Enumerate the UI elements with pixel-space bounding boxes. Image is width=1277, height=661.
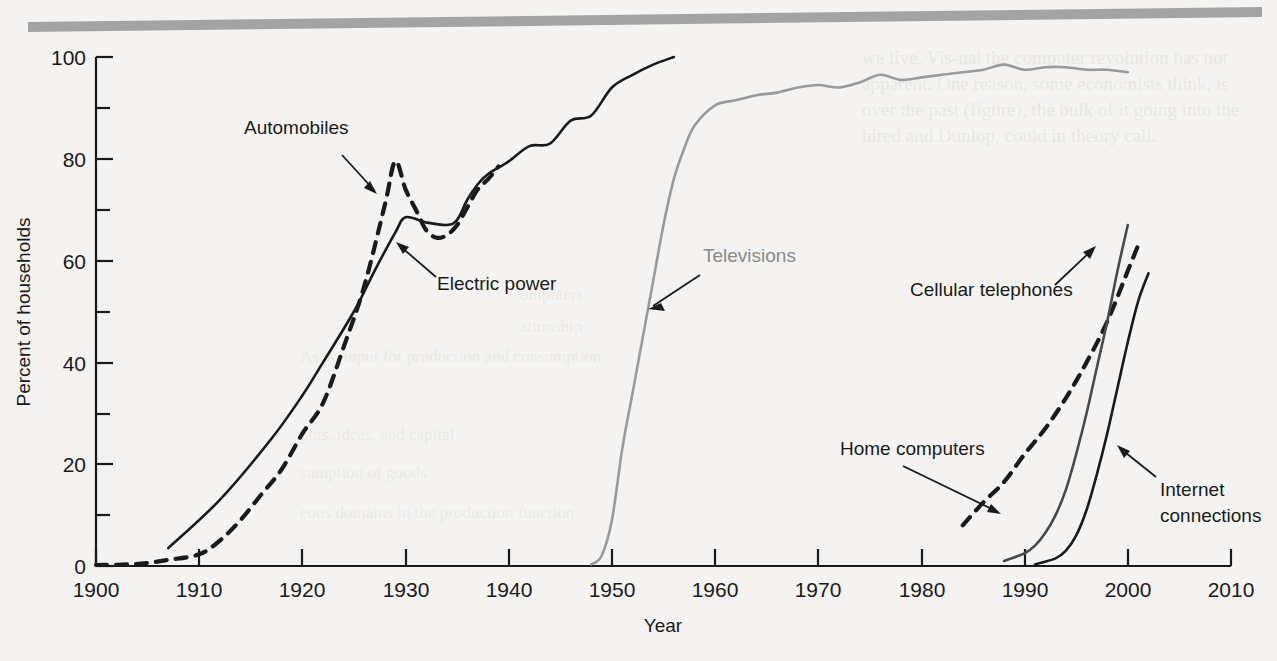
bleed-line-8: puts, ideas, and capital	[300, 425, 455, 444]
y-axis-title: Percent of households	[13, 217, 34, 406]
x-ticklabel-1930: 1930	[383, 578, 430, 601]
x-ticklabel-1950: 1950	[589, 578, 636, 601]
x-ticklabel-1920: 1920	[279, 578, 326, 601]
leader-home-computers	[903, 466, 996, 511]
leader-televisions	[653, 275, 700, 306]
x-ticklabel-1900: 1900	[73, 578, 120, 601]
bleed-line-6: ationship	[520, 317, 582, 336]
bleed-line-9: sumption of goods	[300, 463, 427, 482]
x-ticklabel-1960: 1960	[692, 578, 739, 601]
arrowhead-internet	[1117, 445, 1130, 458]
x-ticklabel-1990: 1990	[1002, 578, 1049, 601]
series-label-home-computers: Home computers	[840, 438, 985, 459]
y-ticklabel-20: 20	[63, 453, 86, 476]
x-ticklabel-2000: 2000	[1105, 578, 1152, 601]
arrowhead-home-computers	[987, 504, 1001, 514]
bleed-line-2: apparent. One reason, some economists th…	[862, 73, 1229, 94]
series-label-internet-line2: connections	[1160, 505, 1261, 526]
chart-figure: we live. Vis-ual the computer revolution…	[0, 0, 1277, 661]
y-ticklabel-40: 40	[63, 352, 86, 375]
top-rule	[28, 7, 1262, 32]
x-ticklabel-1970: 1970	[795, 578, 842, 601]
bleed-line-7: As an input for production and consumpti…	[300, 347, 602, 366]
series-label-automobiles: Automobiles	[244, 117, 349, 138]
bleed-line-3: over the past (figure), the bulk of it g…	[862, 99, 1239, 121]
y-ticklabel-60: 60	[63, 250, 86, 273]
x-ticklabel-1910: 1910	[176, 578, 223, 601]
series-label-televisions: Televisions	[703, 245, 796, 266]
x-ticklabel-1940: 1940	[486, 578, 533, 601]
y-ticklabel-80: 80	[63, 148, 86, 171]
series-label-cellular-telephones: Cellular telephones	[910, 279, 1073, 300]
series-label-internet-line1: Internet	[1160, 479, 1225, 500]
x-axis-title: Year	[644, 615, 683, 636]
chart-svg: we live. Vis-ual the computer revolution…	[0, 0, 1277, 661]
bleed-line-4: hired and Dunlop, could in theory call.	[862, 125, 1156, 146]
bleed-line-10: eous domains in the production function	[300, 503, 575, 522]
x-ticklabel-1980: 1980	[899, 578, 946, 601]
arrowhead-automobiles	[364, 181, 377, 194]
y-ticklabel-100: 100	[51, 46, 86, 69]
y-ticklabel-0: 0	[74, 555, 86, 578]
bleed-line-1: we live. Vis-ual the computer revolution…	[862, 47, 1228, 68]
x-ticklabel-2010: 2010	[1208, 578, 1255, 601]
series-label-electric-power: Electric power	[437, 273, 557, 294]
